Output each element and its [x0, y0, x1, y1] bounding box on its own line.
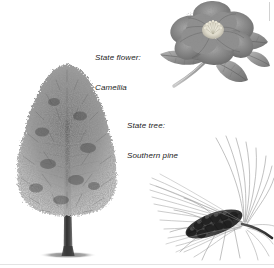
page-edge-rule-bottom — [0, 264, 274, 265]
camellia-svg — [152, 0, 274, 96]
state-tree-label-line2: Southern pine — [127, 151, 178, 161]
state-flower-label-line1: State flower: — [95, 53, 141, 63]
state-flower-label-line2: Camellia — [95, 83, 141, 93]
state-tree-label-line1: State tree: — [127, 121, 178, 131]
camellia-flower-illustration — [152, 0, 274, 96]
tree-trunk-flare — [62, 246, 75, 256]
state-symbols-figure: State flower: Camellia State tree: South… — [0, 0, 274, 268]
page-edge-rule-right — [269, 2, 270, 21]
state-tree-label: State tree: Southern pine — [127, 101, 178, 181]
